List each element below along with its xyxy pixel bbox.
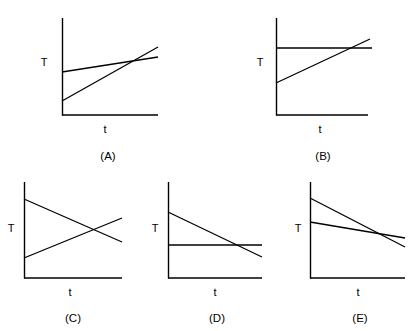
panel-e-caption: (E)	[352, 312, 368, 324]
panel-d-falling-line	[168, 212, 262, 257]
panel-b-y-axis-label: T	[257, 56, 264, 68]
figure-root: T t (A) T t (B) T t (C)	[0, 0, 420, 331]
multi-panel-graph-figure: T t (A) T t (B) T t (C)	[0, 0, 420, 331]
panel-e-y-axis-label: T	[295, 222, 302, 234]
panel-c: T t (C)	[8, 182, 122, 324]
panel-c-y-axis-label: T	[8, 222, 15, 234]
panel-d-x-axis-label: t	[213, 286, 216, 298]
panel-a-shallow-rising-line	[62, 57, 158, 72]
panel-d-y-axis-label: T	[152, 222, 159, 234]
panel-d-caption: (D)	[209, 312, 225, 324]
panel-a-y-axis-label: T	[41, 56, 48, 68]
panel-c-rising-line	[24, 218, 122, 258]
panel-b-rising-line	[276, 39, 370, 83]
panel-c-falling-line	[24, 199, 122, 242]
panel-d: T t (D)	[152, 182, 262, 324]
panel-b: T t (B)	[257, 18, 372, 162]
panel-a-steep-rising-line	[62, 47, 158, 101]
panel-e-x-axis-label: t	[356, 286, 359, 298]
panel-b-x-axis-label: t	[318, 123, 321, 135]
panel-e-steep-falling-line	[310, 198, 405, 247]
panel-c-caption: (C)	[65, 312, 81, 324]
panel-e-shallow-falling-line	[310, 222, 405, 238]
panel-a: T t (A)	[41, 18, 158, 162]
panel-a-x-axis-label: t	[103, 123, 106, 135]
panel-c-x-axis-label: t	[68, 286, 71, 298]
panel-e: T t (E)	[295, 182, 405, 324]
panel-b-caption: (B)	[315, 150, 331, 162]
panel-a-caption: (A)	[100, 150, 116, 162]
